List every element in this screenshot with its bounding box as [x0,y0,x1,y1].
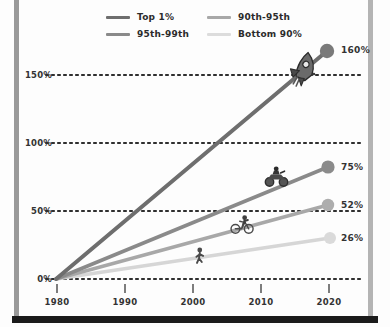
series-endpoint-90th-95th[interactable] [322,199,334,211]
quad-bike-icon [265,166,287,186]
walking-person-icon [196,248,203,263]
series-line-90th-95th[interactable] [56,205,328,279]
chart-frame: Top 1% 95th-99th 90th-95th Bottom 90% 15… [0,0,390,327]
series-endpoint-95th-99th[interactable] [321,160,334,173]
series-endpoint-bottom-90[interactable] [324,232,336,244]
plot-area [0,0,390,327]
series-endpoint-top-1[interactable] [320,44,334,58]
